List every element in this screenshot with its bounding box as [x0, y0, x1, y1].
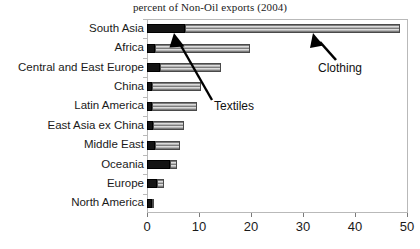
category-tick: [143, 38, 147, 39]
value-axis: 01020304050: [147, 213, 408, 249]
category-tick: [143, 58, 147, 59]
bar-row: [147, 141, 408, 150]
category-label: Africa: [0, 42, 144, 53]
bar-row: [147, 102, 408, 111]
category-label: Latin America: [0, 100, 144, 111]
value-tick: [199, 213, 200, 217]
annotation-label-clothing: Clothing: [318, 61, 362, 75]
category-label: China: [0, 81, 144, 92]
bar-segment-textiles: [147, 179, 157, 188]
bar-row: [147, 44, 408, 53]
category-label: South Asia: [0, 23, 144, 34]
value-tick-label: 30: [296, 219, 310, 234]
bar-segment-clothing: [185, 24, 400, 33]
value-tick-label: 10: [192, 219, 206, 234]
bar-segment-textiles: [147, 63, 160, 72]
value-tick-label: 20: [244, 219, 258, 234]
bar-segment-clothing: [152, 199, 154, 208]
bar-segment-textiles: [147, 24, 185, 33]
bar-row: [147, 63, 408, 72]
bar-row: [147, 160, 408, 169]
value-tick-label: 40: [348, 219, 362, 234]
bar-row: [147, 121, 408, 130]
category-tick: [143, 174, 147, 175]
category-label: Oceania: [0, 159, 144, 170]
category-label: East Asia ex China: [0, 120, 144, 131]
bar-segment-clothing: [153, 121, 184, 130]
category-axis: South AsiaAfricaCentral and East EuropeC…: [0, 19, 144, 213]
category-tick: [143, 77, 147, 78]
category-label: Middle East: [0, 139, 144, 150]
bar-segment-textiles: [147, 141, 155, 150]
category-label: North America: [0, 197, 144, 208]
category-label: Central and East Europe: [0, 62, 144, 73]
bar-segment-clothing: [152, 82, 201, 91]
bar-segment-textiles: [147, 160, 170, 169]
bar-segment-clothing: [170, 160, 177, 169]
value-tick-label: 50: [400, 219, 414, 234]
bar-row: [147, 82, 408, 91]
category-label: Europe: [0, 178, 144, 189]
bar-segment-clothing: [155, 141, 180, 150]
bar-row: [147, 179, 408, 188]
bar-segment-clothing: [152, 102, 197, 111]
bar-segment-clothing: [155, 44, 250, 53]
value-tick: [147, 213, 148, 217]
bar-segment-textiles: [147, 44, 155, 53]
bars-layer: [147, 19, 408, 213]
value-tick: [407, 213, 408, 217]
category-tick: [143, 194, 147, 195]
category-tick: [143, 97, 147, 98]
value-tick: [251, 213, 252, 217]
bar-row: [147, 24, 408, 33]
category-tick: [143, 19, 147, 20]
chart-container: percent of Non-Oil exports (2004) South …: [0, 0, 420, 249]
chart-title: percent of Non-Oil exports (2004): [0, 1, 420, 13]
value-tick: [355, 213, 356, 217]
value-tick-label: 0: [143, 219, 150, 234]
category-tick: [143, 135, 147, 136]
bar-row: [147, 199, 408, 208]
category-tick: [143, 116, 147, 117]
bar-segment-clothing: [157, 179, 164, 188]
bar-segment-clothing: [160, 63, 221, 72]
annotation-label-textiles: Textiles: [214, 99, 254, 113]
category-tick: [143, 155, 147, 156]
value-tick: [303, 213, 304, 217]
